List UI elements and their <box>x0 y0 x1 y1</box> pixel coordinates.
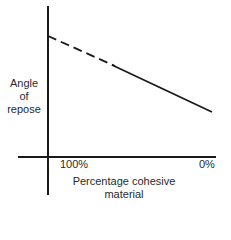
x-tick-0: 0% <box>199 158 215 171</box>
y-axis-label: Angle of repose <box>4 77 44 116</box>
x-tick-100: 100% <box>60 158 88 171</box>
y-label-line3: repose <box>4 103 44 116</box>
x-label-line1: Percentage cohesive <box>64 175 184 188</box>
solid-trend-line <box>112 65 212 112</box>
x-label-line2: material <box>64 188 184 201</box>
x-axis-label: Percentage cohesive material <box>64 175 184 201</box>
dashed-trend-line <box>48 36 115 66</box>
y-label-line1: Angle <box>4 77 44 90</box>
y-label-line2: of <box>4 90 44 103</box>
